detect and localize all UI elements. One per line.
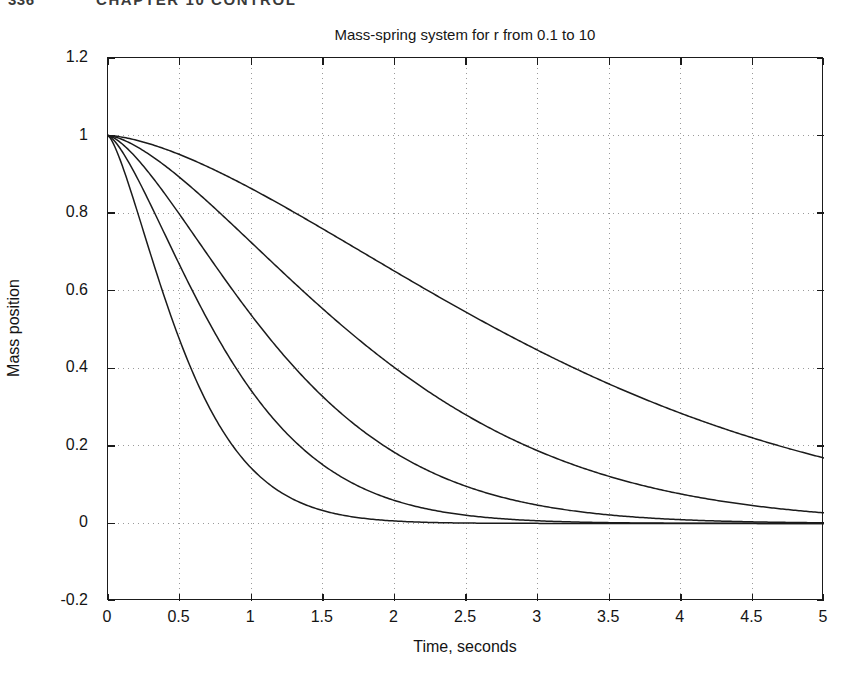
x-tick-label: 0.5 (167, 608, 189, 626)
x-axis-label: Time, seconds (107, 638, 823, 656)
x-tick-label: 1.5 (311, 608, 333, 626)
y-tick-label: -0.2 (60, 591, 97, 609)
x-tick-label: 2 (389, 608, 398, 626)
y-tick-label: 0.4 (66, 358, 97, 376)
y-axis-tick-labels: -0.200.20.40.60.811.2 (0, 57, 97, 600)
y-tick-label: 0.6 (66, 281, 97, 299)
x-tick-label: 3 (532, 608, 541, 626)
chart-title: Mass-spring system for r from 0.1 to 10 (107, 26, 823, 43)
y-tick-label: 1 (79, 126, 97, 144)
plot-area (107, 57, 823, 600)
x-tick-label: 5 (819, 608, 828, 626)
x-tick-label: 3.5 (597, 608, 619, 626)
y-tick-label: 1.2 (66, 48, 97, 66)
grid-lines (108, 58, 824, 601)
plot-canvas (108, 58, 824, 601)
curve-1 (108, 136, 824, 513)
y-tick-label: 0.8 (66, 203, 97, 221)
x-tick-label: 1 (246, 608, 255, 626)
x-tick-label: 4 (675, 608, 684, 626)
y-tick-label: 0.2 (66, 436, 97, 454)
x-tick-label: 4.5 (740, 608, 762, 626)
tick-marks (108, 58, 824, 601)
y-tick-label: 0 (79, 513, 97, 531)
x-axis-tick-labels: 00.511.522.533.544.55 (107, 608, 823, 632)
x-tick-label: 2.5 (454, 608, 476, 626)
x-tick-label: 0 (103, 608, 112, 626)
figure-mass-spring-system: Mass-spring system for r from 0.1 to 10 … (0, 0, 858, 679)
